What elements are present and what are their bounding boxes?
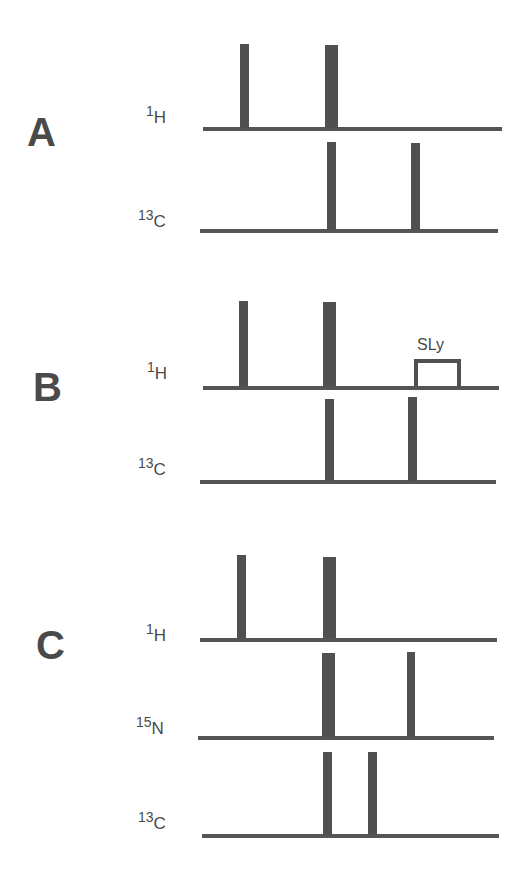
element-symbol: H bbox=[155, 364, 167, 383]
rf-pulse-90 bbox=[325, 399, 334, 481]
panel-label: B bbox=[33, 367, 62, 407]
isotope-number: 13 bbox=[138, 207, 154, 223]
nucleus-label: 1H bbox=[146, 622, 166, 639]
panel-label: C bbox=[36, 625, 65, 665]
nucleus-label: 13C bbox=[138, 456, 166, 473]
isotope-number: 1 bbox=[146, 103, 154, 119]
isotope-number: 15 bbox=[136, 714, 152, 730]
nucleus-label: 1H bbox=[146, 104, 166, 121]
rf-pulse-90 bbox=[368, 752, 377, 835]
nucleus-label: 13C bbox=[138, 810, 166, 827]
rf-pulse-90 bbox=[240, 44, 249, 128]
element-symbol: C bbox=[154, 814, 166, 833]
rf-pulse-90 bbox=[411, 143, 420, 230]
spin-lock-label: SLy bbox=[417, 337, 444, 353]
channel-baseline bbox=[200, 480, 496, 484]
nucleus-label: 15N bbox=[136, 715, 164, 732]
isotope-number: 1 bbox=[147, 359, 155, 375]
rf-pulse-180 bbox=[325, 45, 338, 128]
rf-pulse-90 bbox=[239, 301, 248, 387]
rf-pulse-90 bbox=[237, 555, 246, 639]
rf-pulse-180 bbox=[323, 557, 336, 639]
isotope-number: 1 bbox=[146, 621, 154, 637]
rf-pulse-90 bbox=[327, 142, 336, 230]
element-symbol: H bbox=[154, 108, 166, 127]
rf-pulse-90 bbox=[323, 752, 332, 835]
isotope-number: 13 bbox=[138, 809, 154, 825]
rf-pulse-180 bbox=[322, 653, 335, 737]
rf-pulse-90 bbox=[407, 652, 415, 737]
rf-pulse-90 bbox=[408, 397, 417, 481]
pulse-sequence-figure: A1H13CB1HSLy13CC1H15N13C bbox=[0, 0, 525, 871]
channel-baseline bbox=[198, 736, 494, 740]
isotope-number: 13 bbox=[138, 455, 154, 471]
element-symbol: N bbox=[152, 719, 164, 738]
channel-baseline bbox=[202, 834, 499, 838]
spin-lock-block bbox=[414, 359, 461, 387]
nucleus-label: 13C bbox=[138, 208, 166, 225]
panel-label: A bbox=[27, 112, 56, 152]
element-symbol: H bbox=[154, 626, 166, 645]
channel-baseline bbox=[200, 229, 498, 233]
element-symbol: C bbox=[154, 212, 166, 231]
nucleus-label: 1H bbox=[147, 360, 167, 377]
element-symbol: C bbox=[154, 460, 166, 479]
rf-pulse-180 bbox=[323, 302, 336, 387]
